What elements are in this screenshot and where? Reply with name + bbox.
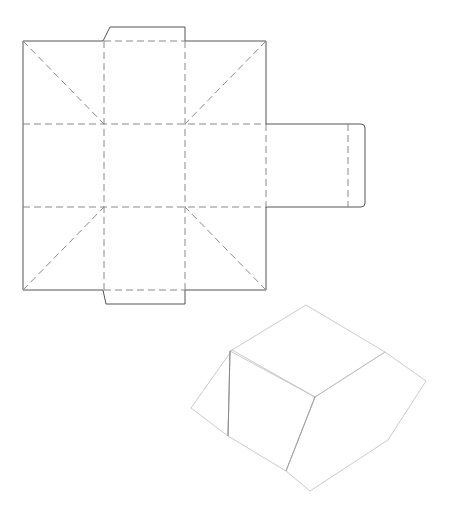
- diagonal-fold-top-right: [185, 41, 266, 124]
- box-face-left-bevel: [191, 350, 232, 436]
- diagonal-fold-bottom-left: [23, 207, 104, 290]
- diagonal-fold-bottom-right: [185, 207, 266, 290]
- box-3d-render: [191, 305, 426, 491]
- diagonal-fold-top-left: [23, 41, 104, 124]
- box-edge-front-vertical: [228, 351, 230, 436]
- box-net: [23, 27, 365, 304]
- box-edge-front-right: [286, 397, 315, 471]
- box-face-front: [228, 351, 315, 471]
- diagram-canvas: [0, 0, 451, 522]
- net-cut-outline: [23, 27, 365, 304]
- box-face-right: [286, 352, 426, 491]
- box-face-top: [232, 305, 385, 397]
